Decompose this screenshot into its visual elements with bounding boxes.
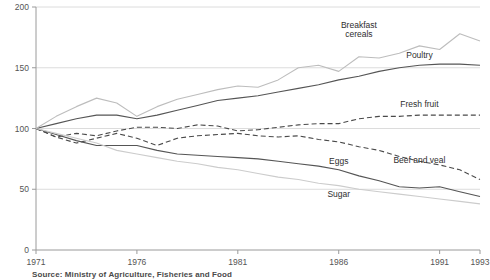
series-label-eggs: Eggs — [329, 156, 348, 166]
series-label-breakfast-cereals: Breakfastcereals — [341, 20, 378, 39]
x-axis-tick-label: 1991 — [430, 257, 449, 267]
series-label-fresh-fruit: Fresh fruit — [400, 99, 439, 109]
x-axis-tick-label: 1971 — [27, 257, 46, 267]
line-chart: 050100150200197119761981198619911993Brea… — [0, 0, 490, 280]
series-line-breakfast-cereals — [36, 64, 480, 128]
x-axis-tick-label: 1993 — [471, 257, 490, 267]
series-label-beef-and-veal: Beef and veal — [393, 155, 445, 165]
y-axis-tick-label: 200 — [15, 2, 29, 12]
x-axis-tick-label: 1976 — [127, 257, 146, 267]
series-label-sugar: Sugar — [327, 189, 350, 199]
series-line-sugar — [36, 129, 480, 204]
y-axis-tick-label: 0 — [24, 245, 29, 255]
x-axis-tick-label: 1981 — [228, 257, 247, 267]
y-axis-tick-label: 50 — [20, 184, 30, 194]
chart-canvas: 050100150200197119761981198619911993Brea… — [0, 0, 490, 280]
x-axis-tick-label: 1986 — [329, 257, 348, 267]
y-axis-tick-label: 100 — [15, 124, 29, 134]
series-line-fresh-fruit — [36, 115, 480, 137]
series-line-poultry — [36, 34, 480, 129]
source-note: Source: Ministry of Agriculture, Fisheri… — [32, 270, 232, 279]
y-axis-tick-label: 150 — [15, 63, 29, 73]
series-label-poultry: Poultry — [406, 50, 433, 60]
